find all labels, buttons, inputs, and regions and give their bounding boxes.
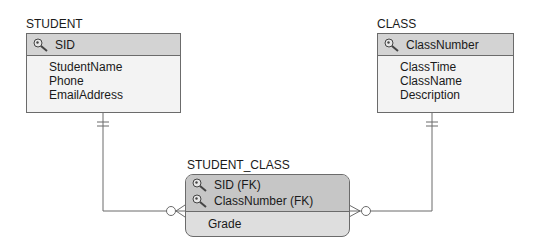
key-icon: [384, 38, 400, 52]
class-attribute: ClassName: [400, 74, 513, 88]
student-class-entity[interactable]: SID (FK) ClassNumber (FK) Grade: [185, 174, 350, 237]
student-class-foreign-key: ClassNumber (FK): [214, 194, 313, 208]
relationship-class-student-class: [349, 112, 438, 217]
student-attribute: StudentName: [49, 60, 180, 74]
student-attribute: EmailAddress: [49, 88, 180, 102]
class-attribute: Description: [400, 88, 513, 102]
class-entity[interactable]: ClassNumber ClassTime ClassName Descript…: [377, 33, 514, 113]
relationship-student-student-class: [97, 112, 185, 217]
student-class-attribute: Grade: [208, 217, 349, 231]
student-class-entity-title: STUDENT_CLASS: [187, 159, 290, 172]
student-attribute: Phone: [49, 74, 180, 88]
student-entity-title: STUDENT: [26, 18, 83, 31]
key-icon: [192, 178, 208, 192]
class-entity-title: CLASS: [377, 18, 416, 31]
key-icon: [192, 194, 208, 208]
student-class-foreign-key: SID (FK): [214, 178, 261, 192]
class-primary-key: ClassNumber: [406, 38, 479, 52]
student-entity[interactable]: SID StudentName Phone EmailAddress: [26, 33, 181, 113]
key-icon: [33, 38, 49, 52]
class-attribute: ClassTime: [400, 60, 513, 74]
student-primary-key: SID: [55, 38, 75, 52]
